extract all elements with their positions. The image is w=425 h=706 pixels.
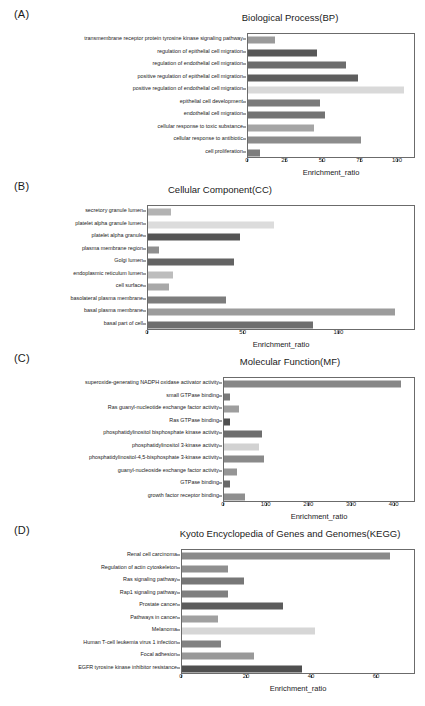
x-tick-label: 40 bbox=[308, 673, 315, 679]
bar-row bbox=[248, 72, 414, 85]
bar bbox=[182, 653, 254, 660]
bar bbox=[248, 149, 260, 156]
bar-row bbox=[224, 403, 414, 416]
panel-tag: (A) bbox=[14, 8, 29, 20]
category-label: platelet alpha granule lumen bbox=[75, 221, 143, 226]
x-tick-label: 60 bbox=[373, 673, 380, 679]
category-tick bbox=[219, 433, 222, 434]
bar-row bbox=[148, 206, 414, 219]
category-label: EGFR tyrosine kinase inhibitor resistanc… bbox=[78, 665, 177, 670]
category-label: Ras GTPase binding bbox=[169, 418, 219, 423]
category-tick bbox=[143, 223, 146, 224]
bar bbox=[224, 443, 259, 450]
bar bbox=[182, 615, 218, 622]
x-axis-title: Enrichment_ratio bbox=[303, 168, 360, 177]
x-tick-label: 0 bbox=[221, 501, 224, 507]
category-tick bbox=[219, 395, 222, 396]
category-label: small GTPase binding bbox=[166, 393, 219, 398]
bar-row bbox=[182, 563, 414, 576]
category-tick bbox=[243, 76, 246, 77]
x-tick-label: 200 bbox=[303, 501, 313, 507]
category-label: epithelial cell development bbox=[180, 99, 243, 104]
panel-tag: (D) bbox=[14, 524, 30, 536]
bar-row bbox=[182, 650, 414, 663]
x-tick-label: 50 bbox=[319, 157, 326, 163]
category-tick bbox=[143, 273, 146, 274]
bar-row bbox=[224, 391, 414, 404]
panel-title: Cellular Component(CC) bbox=[168, 184, 272, 195]
category-label: phosphatidylinositol-4,5-bisphosphate 3-… bbox=[89, 456, 219, 461]
plot-area bbox=[181, 549, 415, 674]
bar bbox=[248, 37, 275, 44]
bar-row bbox=[248, 147, 414, 160]
bar bbox=[182, 628, 315, 635]
category-label: growth factor receptor binding bbox=[148, 493, 219, 498]
bar bbox=[148, 221, 274, 228]
bar-row bbox=[224, 441, 414, 454]
bar bbox=[248, 124, 314, 131]
bar-series bbox=[182, 550, 414, 673]
x-tick-label: 100 bbox=[333, 329, 343, 335]
category-tick bbox=[243, 151, 246, 152]
category-tick bbox=[143, 236, 146, 237]
category-label: regulation of epithelial cell migration bbox=[157, 49, 243, 54]
bar-row bbox=[224, 478, 414, 491]
bar-row bbox=[182, 575, 414, 588]
category-axis: transmembrane receptor protein tyrosine … bbox=[0, 33, 243, 158]
category-label: Ras signaling pathway bbox=[123, 578, 177, 583]
category-tick bbox=[243, 89, 246, 90]
category-tick bbox=[143, 261, 146, 262]
category-tick bbox=[143, 311, 146, 312]
category-tick bbox=[243, 101, 246, 102]
category-label: endoplasmic reticulum lumen bbox=[73, 271, 143, 276]
bar-series bbox=[224, 378, 414, 501]
category-tick bbox=[177, 605, 180, 606]
bar bbox=[224, 418, 230, 425]
bar-row bbox=[182, 600, 414, 613]
category-label: Renal cell carcinoma bbox=[127, 553, 177, 558]
category-tick bbox=[177, 580, 180, 581]
category-label: plasma membrane region bbox=[82, 246, 143, 251]
category-axis: secretory granule lumenplatelet alpha gr… bbox=[0, 205, 143, 330]
x-tick-label: 20 bbox=[243, 673, 250, 679]
bar-row bbox=[182, 588, 414, 601]
bar-row bbox=[224, 428, 414, 441]
category-tick bbox=[177, 642, 180, 643]
category-tick bbox=[219, 483, 222, 484]
category-tick bbox=[177, 592, 180, 593]
category-label: Regulation of actin cytoskeleton bbox=[101, 565, 177, 570]
category-label: basal part of cell bbox=[104, 321, 143, 326]
bar-series bbox=[248, 34, 414, 157]
bar-row bbox=[224, 491, 414, 504]
category-label: superoxide-generating NADPH oxidase acti… bbox=[85, 381, 219, 386]
category-tick bbox=[243, 51, 246, 52]
bar bbox=[182, 590, 228, 597]
category-label: Pathways in cancer bbox=[130, 615, 177, 620]
category-tick bbox=[243, 139, 246, 140]
bar-row bbox=[248, 109, 414, 122]
category-label: positive regulation of epithelial cell m… bbox=[138, 74, 243, 79]
bar-row bbox=[182, 638, 414, 651]
category-label: cell surface bbox=[116, 284, 143, 289]
x-tick-label: 0 bbox=[145, 329, 148, 335]
x-tick-label: 50 bbox=[239, 329, 246, 335]
category-tick bbox=[177, 667, 180, 668]
bar bbox=[182, 578, 244, 585]
category-tick bbox=[243, 64, 246, 65]
bar bbox=[224, 406, 239, 413]
category-tick bbox=[143, 211, 146, 212]
bar bbox=[182, 553, 390, 560]
bar-row bbox=[224, 416, 414, 429]
bar bbox=[224, 468, 237, 475]
x-tick-label: 400 bbox=[389, 501, 399, 507]
category-label: endothelial cell migration bbox=[184, 112, 243, 117]
bar bbox=[182, 640, 221, 647]
category-label: positive regulation of endothelial cell … bbox=[133, 87, 243, 92]
category-label: Ras guanyl-nucleotide exchange factor ac… bbox=[108, 406, 219, 411]
bar bbox=[148, 259, 234, 266]
category-tick bbox=[219, 420, 222, 421]
bar bbox=[248, 62, 346, 69]
bar-row bbox=[248, 122, 414, 135]
category-label: basal plasma membrane bbox=[84, 309, 143, 314]
bar bbox=[148, 296, 226, 303]
